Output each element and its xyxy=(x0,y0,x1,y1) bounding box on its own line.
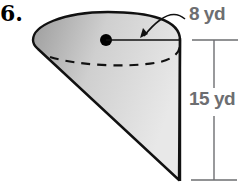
radius-label: 8 yd xyxy=(189,4,225,23)
height-label: 15 yd xyxy=(189,89,235,108)
